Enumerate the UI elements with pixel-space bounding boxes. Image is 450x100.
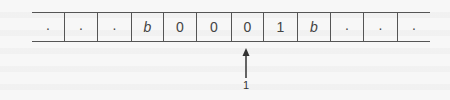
cell-symbol: 0 [244, 19, 252, 35]
cell-symbol: . [412, 18, 416, 32]
turing-tape: . . . b 0 0 0 1 b . . . [32, 12, 430, 42]
tape-cell: . [363, 13, 397, 41]
cell-symbol: . [345, 18, 349, 32]
cell-symbol: . [46, 18, 50, 32]
cell-symbol: 0 [210, 19, 218, 35]
cell-symbol: 0 [176, 19, 184, 35]
tape-cell: 0 [163, 13, 196, 41]
tape-cell-head: 0 [231, 13, 263, 41]
tape-head-pointer: 1 [240, 48, 252, 92]
cell-symbol: 1 [277, 19, 285, 35]
cell-symbol: . [79, 18, 83, 32]
tape-cell: . [397, 13, 430, 41]
tape-cell: . [64, 13, 97, 41]
tape-cell: 0 [196, 13, 231, 41]
tape-cell: b [131, 13, 163, 41]
cell-symbol: . [379, 18, 383, 32]
up-arrow-icon [240, 48, 252, 78]
cell-symbol: . [113, 18, 117, 32]
tape-cell: . [97, 13, 131, 41]
tape-cell: . [32, 13, 64, 41]
tape-cell: . [330, 13, 363, 41]
cell-symbol: b [144, 19, 152, 35]
tape-cell: b [297, 13, 330, 41]
cell-symbol: b [310, 19, 318, 35]
tape-cell: 1 [263, 13, 297, 41]
head-state-label: 1 [240, 79, 252, 91]
